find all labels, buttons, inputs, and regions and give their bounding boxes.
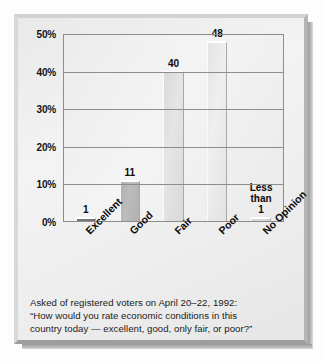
caption-line-3: country today — excellent, good, only fa… (30, 322, 280, 335)
y-axis-tick-label: 50% (37, 29, 56, 40)
y-axis-labels: 0%10%20%30%40%50% (18, 34, 60, 222)
bar-column: 11 (120, 33, 140, 221)
gridline (64, 72, 283, 73)
y-axis-tick-label: 20% (37, 141, 56, 152)
gridline (64, 147, 283, 148)
plot-area: 1114048Lessthan1 (63, 34, 284, 222)
bar-value-label: 40 (168, 58, 179, 69)
caption-line-2: “How would you rate economic conditions … (30, 309, 280, 322)
bar-value-label: 1 (83, 204, 89, 215)
frame-shadow-bottom (22, 344, 312, 349)
y-axis-tick-label: 30% (37, 104, 56, 115)
bar-column: 1 (76, 33, 96, 221)
y-axis-tick-label: 0% (42, 217, 56, 228)
y-axis-tick-label: 40% (37, 66, 56, 77)
bar-good (120, 180, 140, 221)
bar-column: 40 (163, 33, 183, 221)
gridline (64, 34, 283, 35)
bar-value-label: 11 (124, 167, 135, 178)
caption-line-1: Asked of registered voters on April 20–2… (30, 296, 280, 309)
bar-column: Lessthan1 (251, 33, 271, 221)
bar-chart: 0%10%20%30%40%50% 1114048Lessthan1 Excel… (18, 18, 304, 246)
bar-fair (163, 71, 183, 221)
gridline (64, 184, 283, 185)
bar-series: 1114048Lessthan1 (64, 35, 283, 221)
chart-caption: Asked of registered voters on April 20–2… (30, 296, 280, 336)
bar-poor (207, 41, 227, 221)
bar-column: 48 (207, 33, 227, 221)
y-axis-tick-label: 10% (37, 179, 56, 190)
frame-shadow-right (308, 22, 313, 349)
chart-figure: 0%10%20%30%40%50% 1114048Lessthan1 Excel… (0, 0, 322, 362)
bar-value-label: Lessthan1 (250, 182, 273, 215)
gridline (64, 109, 283, 110)
